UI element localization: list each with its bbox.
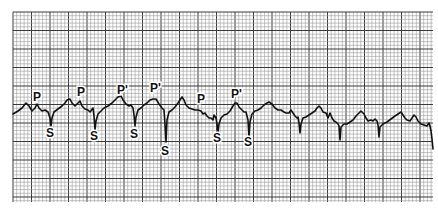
p-wave-label: P <box>33 90 41 104</box>
p-wave-label: P <box>77 85 85 99</box>
s-wave-label: S <box>244 135 252 149</box>
ectopic-p-wave-label: P' <box>150 81 161 95</box>
s-wave-label: S <box>213 131 221 145</box>
s-wave-label: S <box>130 127 138 141</box>
ectopic-p-wave-label: P' <box>231 87 242 101</box>
ecg-grid-paper <box>13 12 433 202</box>
s-wave-label: S <box>161 144 169 158</box>
s-wave-label: S <box>90 129 98 143</box>
ectopic-p-wave-label: P' <box>117 83 128 97</box>
p-wave-label: P <box>197 92 205 106</box>
ecg-strip: PPPPP'P'P'P'PPP'P'SSSSSSSSSSSS <box>0 0 438 208</box>
s-wave-label: S <box>46 126 54 140</box>
